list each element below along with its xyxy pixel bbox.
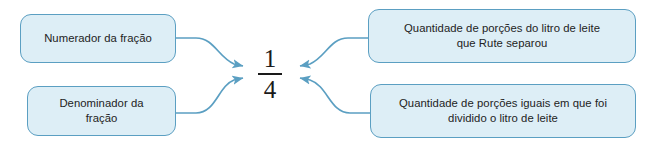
node-label-numerador: Numerador da fração [29,31,167,47]
fraction-bar [258,73,282,75]
connector-porcoes-separou-to-numerator [300,38,368,66]
node-box-denominador[interactable]: Denominador da fração [27,86,176,136]
fraction-denominator: 4 [264,76,277,103]
connector-denominador-to-denominator [176,78,243,113]
node-box-porcoes-separou[interactable]: Quantidade de porções do litro de leite … [368,9,636,63]
node-box-numerador[interactable]: Numerador da fração [20,14,176,63]
connector-numerador-to-numerator [176,38,243,66]
fraction-display: 1 4 [252,41,288,107]
fraction-diagram: Numerador da fração Denominador da fraçã… [0,0,660,147]
connector-porcoes-divididas-to-denominator [300,78,370,113]
node-box-porcoes-divididas[interactable]: Quantidade de porções iguais em que foi … [370,84,636,138]
node-label-denominador: Denominador da fração [36,96,167,127]
fraction-numerator: 1 [264,45,277,72]
node-label-porcoes-separou: Quantidade de porções do litro de leite … [377,21,627,52]
node-label-porcoes-divididas: Quantidade de porções iguais em que foi … [379,96,627,127]
